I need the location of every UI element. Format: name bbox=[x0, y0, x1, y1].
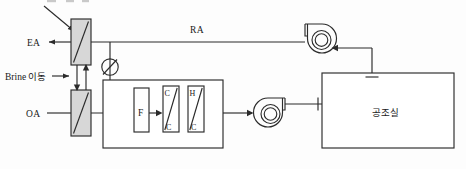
supply-fan bbox=[254, 98, 285, 127]
ahu-outlet-line bbox=[223, 110, 254, 116]
cooling-coil-component: C C bbox=[163, 86, 179, 132]
cooling-coil-top-label: C bbox=[165, 89, 170, 98]
exhaust-heat-exchanger bbox=[71, 19, 91, 65]
exhaust-fan bbox=[305, 24, 337, 53]
return-air-label: RA bbox=[190, 25, 204, 35]
brine-label: Brine 이동 bbox=[5, 72, 46, 82]
heating-coil-bottom-label: C bbox=[191, 123, 196, 132]
intake-heat-exchanger bbox=[71, 90, 91, 136]
filter-label: F bbox=[138, 108, 144, 118]
diagram-canvas: EA RA bbox=[0, 0, 466, 169]
brine-loop-lines bbox=[74, 64, 89, 91]
filter-component: F bbox=[134, 88, 149, 132]
outdoor-air-label: OA bbox=[26, 109, 40, 119]
room-label: 공조실 bbox=[372, 108, 399, 118]
hvac-schematic-diagram: EA RA bbox=[0, 0, 466, 169]
callout-pointer-line bbox=[44, 6, 74, 31]
heating-coil-top-label: H bbox=[190, 89, 196, 98]
top-edge-artifact bbox=[47, 0, 89, 2]
supply-duct-to-room bbox=[285, 98, 322, 111]
exhaust-air-label: EA bbox=[27, 38, 40, 48]
cooling-coil-bottom-label: C bbox=[166, 123, 171, 132]
conditioned-room: 공조실 bbox=[322, 73, 454, 148]
heating-coil-component: H C bbox=[188, 86, 204, 132]
return-duct-from-room bbox=[332, 45, 379, 77]
